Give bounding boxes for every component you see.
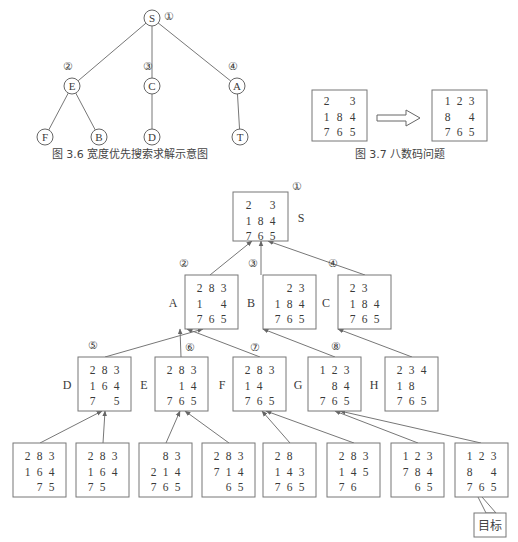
puzzle-cell: 6 [351,481,357,493]
puzzle-cell: 3 [270,199,276,211]
puzzle-cell: 4 [350,111,356,123]
puzzle-cell: 3 [112,450,118,462]
puzzle-cell: 1 [445,95,451,107]
state-leaf-4: 283714 65 [202,443,255,497]
puzzle-cell: 2 [197,282,203,294]
puzzle-cell: 6 [258,230,264,242]
puzzle-cell: 6 [332,395,338,407]
puzzle-cell: 1 [245,380,251,392]
puzzle-cell: 2 [214,450,220,462]
puzzle-cell: 8 [362,298,368,310]
expansion-order: ③ [248,257,258,269]
puzzle-cell: 3 [221,282,227,294]
expansion-order: ⑧ [331,340,341,352]
puzzle-cell: 2 [397,364,403,376]
state-label: S [298,211,305,225]
puzzle-cell: 2 [151,466,157,478]
puzzle-cell: 3 [299,282,305,294]
tree-node-t: T [232,129,248,145]
puzzle-cell: 8 [332,380,338,392]
puzzle-cell: 1 [320,364,326,376]
puzzle-cell: 2 [245,364,251,376]
puzzle-cell: 7 [275,481,281,493]
puzzle-cell: 7 [90,395,96,407]
state-label: D [63,378,72,392]
puzzle-cell: 4 [221,298,227,310]
puzzle-cell: 8 [409,380,415,392]
puzzle-cell: 7 [167,395,173,407]
puzzle-cell: 4 [427,466,433,478]
puzzle-cell: 8 [467,466,473,478]
node-label: C [148,80,155,92]
puzzle-cell: 3 [191,364,197,376]
puzzle-cell: 3 [427,450,433,462]
figure-3-6-bfs-tree: S①E②C③A④FBDT 图 3.6 宽度优先搜索求解示意图 [37,10,248,161]
state-leaf-2: 28316475 [76,443,129,497]
puzzle-cell: 7 [403,466,409,478]
node-label: E [69,80,76,92]
puzzle-cell: 8 [179,364,185,376]
puzzle-cell: 5 [491,481,497,493]
expansion-order: ⑤ [88,339,98,351]
puzzle-cell: 7 [339,481,345,493]
puzzle-cell: 7 [37,481,43,493]
puzzle-cell: 8 [100,450,106,462]
state-leaf-7: 123784 65 [391,443,444,497]
puzzle-cell: 4 [49,466,55,478]
puzzle-cell: 4 [374,298,380,310]
puzzle-cell: 6 [362,313,368,325]
puzzle-cell: 1 [324,111,330,123]
tree-node-a: A④ [228,60,245,94]
puzzle-cell: 5 [221,313,227,325]
expansion-order: ② [179,257,189,269]
puzzle-cell: 4 [287,466,293,478]
state-leaf-5: 28 143765 [263,443,316,497]
puzzle-cell: 7 [320,395,326,407]
state-label: C [322,296,330,310]
puzzle-cell: 5 [175,481,181,493]
puzzle-cell: 1 [226,466,232,478]
puzzle-cell: 1 [350,298,356,310]
puzzle-cell: 7 [88,481,94,493]
puzzle-cell: 6 [287,481,293,493]
puzzle-cell: 1 [275,466,281,478]
puzzle-cell: 4 [344,380,350,392]
puzzle-cell: 6 [163,481,169,493]
puzzle-cell: 1 [467,450,473,462]
puzzle-cell: 2 [167,364,173,376]
visit-order-label: ④ [228,60,238,72]
node-label: B [95,131,102,143]
state-f: 28314 765F⑦ [219,341,286,411]
visit-order-label: ① [164,10,174,22]
expansion-order: ④ [328,257,338,269]
search-tree: 2 3184765S①2831 4765A② 23184765B③23 1847… [13,180,508,537]
puzzle-cell: 2 [287,282,293,294]
puzzle-cell: 3 [491,450,497,462]
goal-callout: 目标 [474,513,506,537]
figure-3-7-caption: 图 3.7 八数码问题 [355,148,446,161]
puzzle-cell: 5 [469,126,475,138]
puzzle-cell: 5 [114,395,120,407]
puzzle-cell: 3 [49,450,55,462]
puzzle-cell: 2 [246,199,252,211]
puzzle-cell: 6 [457,126,463,138]
node-label: A [233,80,241,92]
puzzle-cell: 6 [100,466,106,478]
puzzle-cell: 5 [299,313,305,325]
puzzle-cell: 6 [409,395,415,407]
puzzle-cell: 2 [25,450,31,462]
puzzle-cell: 5 [350,126,356,138]
puzzle-cell: 5 [49,481,55,493]
puzzle-cell: 7 [324,126,330,138]
puzzle-cell: 2 [479,450,485,462]
puzzle-cell: 8 [226,450,232,462]
puzzle-cell: 8 [163,450,169,462]
puzzle-cell: 8 [445,111,451,123]
puzzle-cell: 6 [179,395,185,407]
diagram-canvas: S①E②C③A④FBDT 图 3.6 宽度优先搜索求解示意图 2 3184765… [0,0,518,542]
puzzle-cell: 1 [197,298,203,310]
puzzle-cell: 1 [246,215,252,227]
puzzle-cell: 8 [351,450,357,462]
puzzle-cell: 7 [197,313,203,325]
puzzle-cell: 3 [362,282,368,294]
